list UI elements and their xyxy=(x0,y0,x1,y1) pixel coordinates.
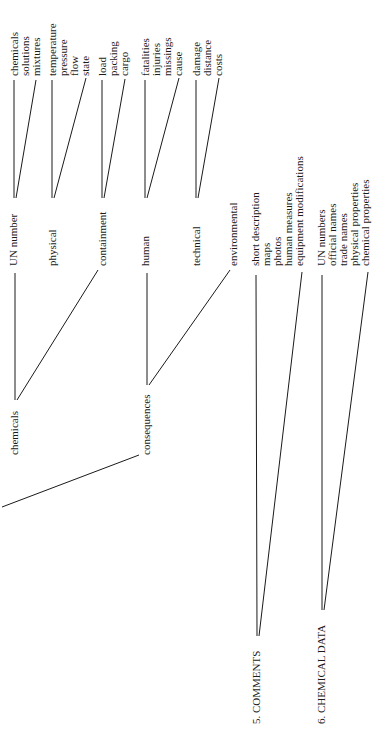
node-un-number: UN number xyxy=(8,214,19,266)
node-technical: technical xyxy=(191,226,202,266)
node-physical: physical xyxy=(47,229,58,266)
leaf-cause: cause xyxy=(173,52,184,76)
leaf-mixtures: mixtures xyxy=(31,38,42,77)
node-chemicals: chemicals xyxy=(9,411,20,455)
node-containment: containment xyxy=(97,212,108,266)
node-consequences: consequences xyxy=(141,395,152,455)
leaf-chemical-properties: chemical properties xyxy=(360,180,371,266)
node-environmental: environmental xyxy=(228,202,239,266)
leaf-equipment-modifications: equipment modifications xyxy=(294,156,305,266)
leaf-state: state xyxy=(80,56,91,76)
leaf-costs: costs xyxy=(213,54,224,76)
node-human: human xyxy=(140,236,151,266)
heading-comments: 5. COMMENTS xyxy=(251,651,262,724)
leaf-cargo: cargo xyxy=(119,52,130,76)
heading-chemical-data: 6. CHEMICAL DATA xyxy=(316,625,327,724)
